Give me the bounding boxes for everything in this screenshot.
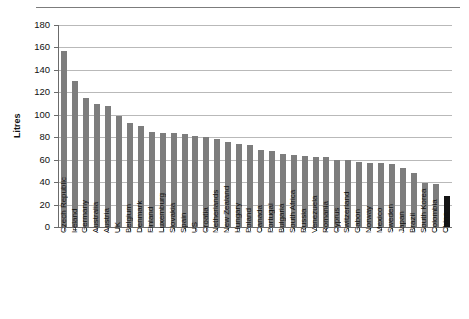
x-label-new-zealand: New Zealand (223, 186, 231, 233)
x-label-russia: Russia (300, 209, 308, 233)
x-label-poland: Poland (245, 208, 253, 233)
gridline-160 (59, 47, 452, 48)
x-label-south-korea: South Korea (420, 189, 428, 233)
x-label-denmark: Denmark (136, 201, 144, 233)
x-label-australia: Australia (92, 202, 100, 233)
gridline-180 (59, 25, 452, 26)
plot-area (59, 25, 452, 227)
x-label-japan: Japan (398, 211, 406, 233)
x-label-romania: Romania (322, 201, 330, 233)
bar-ireland (72, 81, 78, 227)
x-label-croatia: Croatia (202, 207, 210, 233)
y-tick-label-40: 40 (20, 177, 50, 187)
y-tick-label-20: 20 (20, 200, 50, 210)
x-label-uk: UK (114, 222, 122, 233)
y-tick-label-120: 120 (20, 87, 50, 97)
x-label-colombia: Colombia (431, 199, 439, 233)
y-axis-title: Litres (12, 96, 26, 156)
x-label-south-africa: South Africa (289, 190, 297, 233)
bar-chart-figure: Litres 020406080100120140160180 Czech Re… (0, 0, 469, 319)
x-label-portugal: Portugal (267, 203, 275, 233)
x-label-canada: Canada (256, 205, 264, 233)
bar-us (192, 136, 198, 227)
y-tick-label-0: 0 (20, 222, 50, 232)
x-label-china: China (442, 212, 450, 233)
x-label-us: US (191, 222, 199, 233)
x-label-czech-republic: Czech Republic (60, 177, 68, 233)
x-label-luxemburg: Luxemburg (158, 193, 166, 233)
x-label-finland: Finland (147, 207, 155, 233)
top-divider-rule (36, 7, 460, 8)
y-tick-label-60: 60 (20, 155, 50, 165)
y-tick-label-100: 100 (20, 110, 50, 120)
x-label-spain: Spain (180, 213, 188, 233)
x-label-slovakia: Slovakia (169, 203, 177, 233)
x-label-mexico: Mexico (376, 208, 384, 233)
x-label-sweden: Sweden (387, 204, 395, 233)
x-label-norway: Norway (365, 206, 373, 233)
gridline-120 (59, 92, 452, 93)
x-label-venezuela: Venezuela (311, 196, 319, 233)
x-label-austria: Austria (103, 208, 111, 233)
x-label-ireland: Ireland (71, 209, 79, 233)
y-tick-label-80: 80 (20, 132, 50, 142)
x-label-gabon: Gabon (354, 209, 362, 233)
y-tick-label-140: 140 (20, 65, 50, 75)
x-label-germany: Germany (81, 200, 89, 233)
x-label-netherlands: Netherlands (212, 190, 220, 233)
x-label-cyprus: Cyprus (333, 208, 341, 233)
x-label-brazil: Brazil (409, 213, 417, 233)
bar-uk (116, 116, 122, 227)
gridline-140 (59, 70, 452, 71)
y-tick-label-180: 180 (20, 20, 50, 30)
x-label-switzerland: Switzerland (343, 192, 351, 233)
x-label-bulgaria: Bulgaria (278, 204, 286, 233)
x-label-hungary: Hungary (234, 203, 242, 233)
x-label-belgium: Belgium (125, 204, 133, 233)
y-tick-label-160: 160 (20, 42, 50, 52)
